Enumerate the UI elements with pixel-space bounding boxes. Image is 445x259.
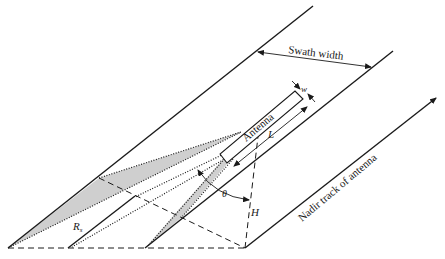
- length-symbol: L: [267, 128, 274, 140]
- height-symbol: H: [250, 206, 260, 218]
- nadir-track-label: Nadir track of antenna: [296, 151, 379, 224]
- slant-range-symbol: Rs: [72, 220, 83, 234]
- width-symbol: w: [301, 84, 307, 94]
- width-arrow-top: [292, 81, 300, 89]
- radar-geometry-diagram: Swath width Antenna w L θ H Rs Nadir tra…: [0, 0, 445, 259]
- width-arrow-bottom: [308, 94, 315, 102]
- swath-near-edge-line: [145, 51, 393, 248]
- swath-width-label: Swath width: [288, 43, 345, 62]
- beam-footprint-far: [8, 132, 241, 248]
- slant-range-subscript: s: [80, 226, 83, 234]
- look-angle-symbol: θ: [222, 188, 227, 199]
